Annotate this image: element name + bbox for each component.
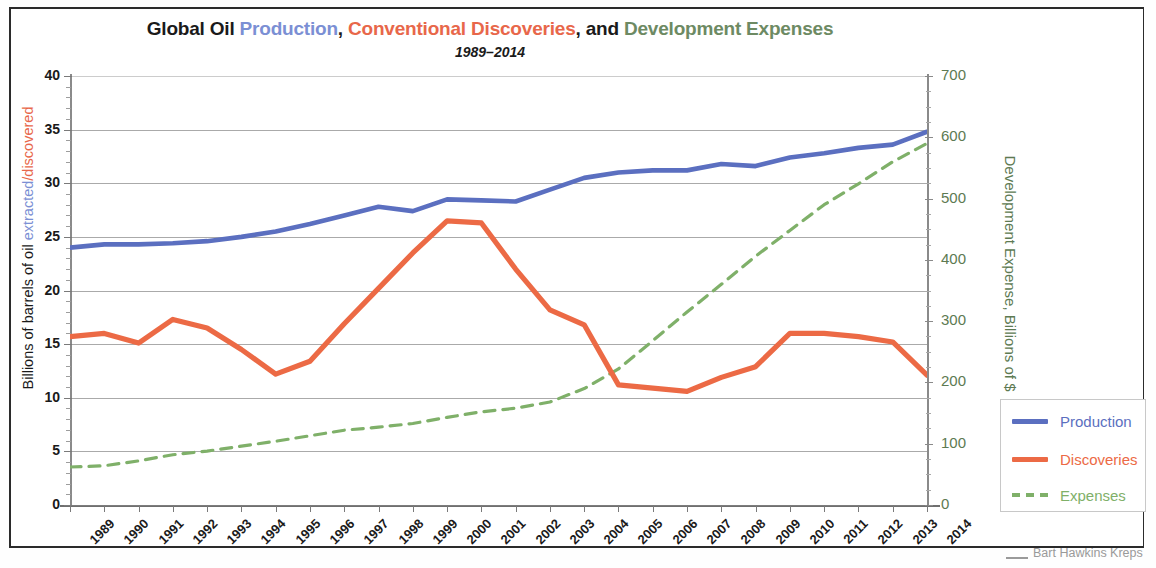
x-axis-tick-mark-1992: [173, 505, 174, 512]
y-axis-right-tick-label-100: 100: [941, 434, 966, 451]
x-axis-tick-mark-2011: [824, 505, 825, 512]
series-line-discoveries: [70, 221, 927, 392]
y-axis-left-tick-label-30: 30: [16, 174, 60, 190]
legend-swatch-discoveries: [1012, 457, 1048, 462]
y-axis-right-tick-label-0: 0: [941, 495, 949, 512]
y-axis-title-left-discovered: discovered: [20, 107, 36, 177]
series-line-production: [70, 132, 927, 248]
y-axis-right-tick-label-300: 300: [941, 311, 966, 328]
x-axis-tick-mark-1998: [379, 505, 380, 512]
x-axis-tick-mark-1997: [344, 505, 345, 512]
chart-page: Global Oil Production, Conventional Disc…: [0, 0, 1156, 568]
x-axis-tick-mark-1996: [310, 505, 311, 512]
x-axis-tick-mark-2005: [618, 505, 619, 512]
y-axis-left-tick-label-0: 0: [16, 496, 60, 512]
y-axis-left-tick-label-10: 10: [16, 389, 60, 405]
x-axis-tick-mark-1989: [70, 505, 71, 512]
x-axis-tick-mark-2001: [481, 505, 482, 512]
x-axis-tick-mark-2014: [927, 505, 928, 512]
legend-label-expenses: Expenses: [1060, 487, 1126, 504]
legend: Production Discoveries Expenses: [1000, 399, 1146, 512]
legend-label-discoveries: Discoveries: [1060, 451, 1138, 468]
x-axis-tick-mark-2006: [653, 505, 654, 512]
x-axis-tick-mark-2012: [858, 505, 859, 512]
x-axis-tick-mark-2008: [721, 505, 722, 512]
legend-swatch-production: [1012, 419, 1048, 424]
attribution-rule: [1006, 557, 1028, 559]
x-axis-tick-mark-1991: [139, 505, 140, 512]
x-axis-tick-mark-1999: [413, 505, 414, 512]
x-axis-tick-mark-2003: [550, 505, 551, 512]
x-axis-tick-mark-1990: [104, 505, 105, 512]
y-axis-left-tick-label-15: 15: [16, 335, 60, 351]
x-axis-tick-mark-2013: [893, 505, 894, 512]
y-axis-right-tick-label-400: 400: [941, 250, 966, 267]
y-axis-right-tick-label-600: 600: [941, 127, 966, 144]
x-axis-tick-mark-2007: [687, 505, 688, 512]
legend-item-discoveries[interactable]: Discoveries: [1001, 444, 1145, 474]
y-axis-right-tick-label-200: 200: [941, 372, 966, 389]
x-axis-tick-mark-1993: [207, 505, 208, 512]
x-axis-tick-mark-2002: [516, 505, 517, 512]
y-axis-right-tick-label-500: 500: [941, 189, 966, 206]
y-axis-left-tick-label-20: 20: [16, 282, 60, 298]
y-axis-left-tick-label-35: 35: [16, 121, 60, 137]
x-axis-tick-mark-1994: [241, 505, 242, 512]
x-axis-tick-mark-2010: [790, 505, 791, 512]
legend-swatch-expenses: [1012, 493, 1048, 497]
legend-item-expenses[interactable]: Expenses: [1001, 480, 1145, 510]
plot-area: [70, 76, 927, 505]
series-canvas: [70, 76, 927, 505]
series-line-expenses: [70, 143, 927, 467]
x-axis-tick-mark-2000: [447, 505, 448, 512]
y-axis-left-tick-label-25: 25: [16, 228, 60, 244]
x-axis-tick-mark-2004: [584, 505, 585, 512]
attribution: Bart Hawkins Kreps: [1033, 546, 1143, 560]
y-axis-left-tick-label-40: 40: [16, 67, 60, 83]
legend-label-production: Production: [1060, 413, 1132, 430]
y-axis-left-tick-label-5: 5: [16, 442, 60, 458]
y-axis-title-left-prefix: Billions of barrels of oil: [20, 240, 36, 389]
x-axis-tick-mark-2009: [756, 505, 757, 512]
y-axis-right-tick-label-700: 700: [941, 66, 966, 83]
gridline-y-0: [70, 505, 927, 506]
legend-item-production[interactable]: Production: [1001, 406, 1145, 436]
x-axis-tick-mark-1995: [276, 505, 277, 512]
